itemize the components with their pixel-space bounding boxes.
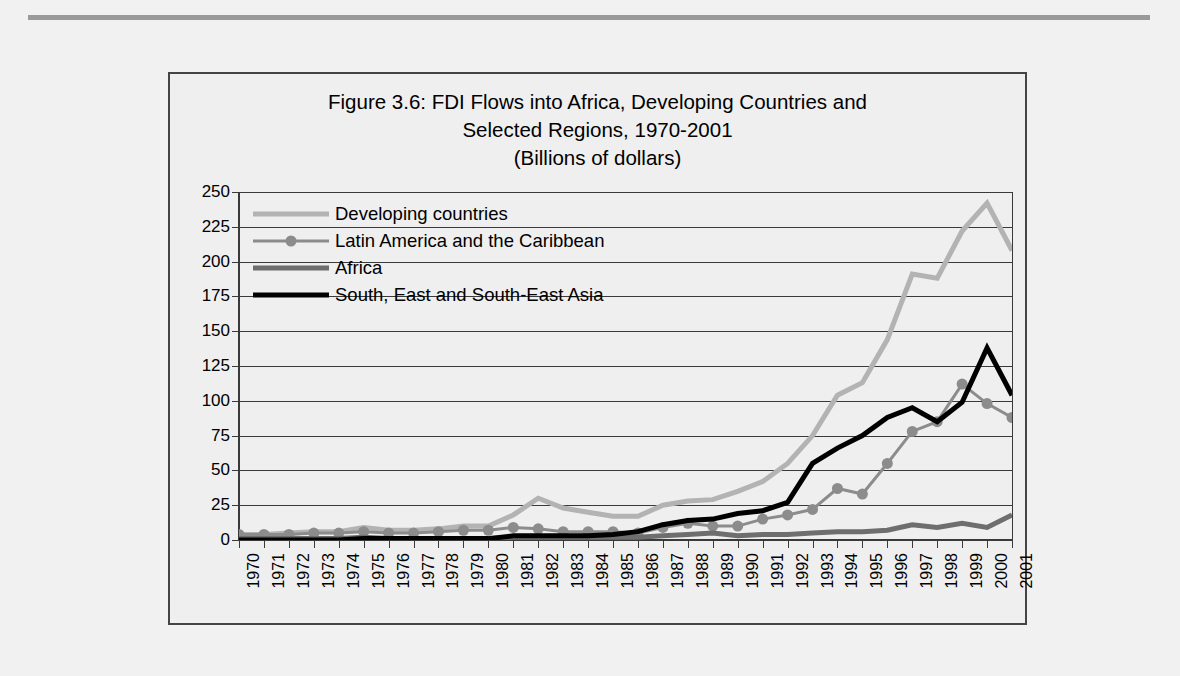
x-tick-mark [513,540,514,548]
x-tick-label: 1977 [420,553,438,589]
x-tick-label: 1996 [893,553,911,589]
x-tick-label: 1984 [594,553,612,589]
x-tick-mark [638,540,639,548]
legend-swatch-icon [253,200,329,227]
x-tick-mark [389,540,390,548]
y-tick-label: 225 [202,217,230,237]
x-tick-mark [987,540,988,548]
data-point-marker [483,525,494,536]
data-point-marker [707,521,718,532]
figure-title-line-1: Figure 3.6: FDI Flows into Africa, Devel… [170,88,1025,116]
x-tick-label: 1994 [843,553,861,589]
data-point-marker [533,523,544,534]
series-south-east-and-south-east-asia [239,348,1012,540]
x-tick-mark [788,540,789,548]
x-tick-mark [1012,540,1013,548]
x-tick-label: 1981 [519,553,537,589]
x-tick-label: 1976 [395,553,413,589]
x-tick-mark [339,540,340,548]
x-tick-mark [613,540,614,548]
legend-item-label: Africa [329,257,382,279]
y-tick-label: 125 [202,356,230,376]
x-tick-label: 1991 [769,553,787,589]
x-tick-label: 1993 [819,553,837,589]
x-tick-mark [912,540,913,548]
legend-item-label: Latin America and the Caribbean [329,230,604,252]
data-point-marker [882,458,893,469]
x-tick-label: 2001 [1018,553,1036,589]
x-tick-label: 1980 [494,553,512,589]
line-chart: 0255075100125150175200225250 19701971197… [239,192,1012,540]
legend-item-developing[interactable]: Developing countries [253,200,604,227]
data-point-marker [857,489,868,500]
header-rule [28,15,1150,20]
x-tick-label: 1978 [444,553,462,589]
x-tick-mark [264,540,265,548]
x-tick-mark [488,540,489,548]
figure-subtitle: (Billions of dollars) [170,144,1025,172]
x-tick-label: 1975 [370,553,388,589]
x-tick-mark [937,540,938,548]
y-tick-label: 250 [202,182,230,202]
legend-item-label: South, East and South-East Asia [329,284,603,306]
x-tick-mark [763,540,764,548]
series-line [239,348,1012,540]
x-tick-label: 1972 [295,553,313,589]
data-point-marker [433,526,444,537]
x-tick-mark [813,540,814,548]
data-point-marker [508,522,519,533]
x-tick-mark [314,540,315,548]
data-point-marker [757,514,768,525]
data-point-marker [907,426,918,437]
y-tick-label: 25 [211,495,230,515]
x-tick-mark [588,540,589,548]
x-tick-mark [364,540,365,548]
x-tick-mark [538,540,539,548]
x-tick-label: 1992 [794,553,812,589]
data-point-marker [458,525,469,536]
x-tick-label: 1995 [868,553,886,589]
x-tick-label: 1985 [619,553,637,589]
x-tick-mark [663,540,664,548]
x-tick-mark [713,540,714,548]
x-tick-label: 1971 [270,553,288,589]
legend-marker-dot-icon [286,235,297,246]
x-tick-label: 1970 [245,553,263,589]
data-point-marker [832,483,843,494]
y-tick-label: 100 [202,391,230,411]
x-tick-mark [563,540,564,548]
x-tick-label: 1987 [669,553,687,589]
x-tick-mark [688,540,689,548]
x-tick-label: 1982 [544,553,562,589]
plot-area: 0255075100125150175200225250 19701971197… [239,192,1012,540]
x-tick-label: 1979 [469,553,487,589]
x-tick-label: 1999 [968,553,986,589]
figure-title-line-2: Selected Regions, 1970-2001 [170,116,1025,144]
data-point-marker [732,521,743,532]
x-tick-mark [463,540,464,548]
x-tick-mark [862,540,863,548]
legend-item-latin-america[interactable]: Latin America and the Caribbean [253,227,604,254]
x-tick-mark [289,540,290,548]
series-line [239,384,1012,534]
x-tick-label: 1986 [644,553,662,589]
y-tick-label: 0 [221,530,230,550]
y-tick-label: 75 [211,426,230,446]
plot-right-border [1012,192,1013,540]
data-point-marker [982,398,993,409]
x-tick-label: 1998 [943,553,961,589]
x-tick-label: 1974 [345,553,363,589]
x-tick-mark [414,540,415,548]
x-tick-label: 1990 [744,553,762,589]
chart-legend: Developing countriesLatin America and th… [253,200,604,308]
figure-frame: Figure 3.6: FDI Flows into Africa, Devel… [168,72,1027,625]
data-point-marker [807,504,818,515]
x-tick-label: 1983 [569,553,587,589]
page-canvas: Figure 3.6: FDI Flows into Africa, Devel… [0,0,1180,676]
legend-swatch-icon [253,281,329,308]
x-tick-label: 1997 [918,553,936,589]
x-tick-mark [239,540,240,548]
legend-item-asia[interactable]: South, East and South-East Asia [253,281,604,308]
legend-item-africa[interactable]: Africa [253,254,604,281]
y-tick-label: 200 [202,252,230,272]
